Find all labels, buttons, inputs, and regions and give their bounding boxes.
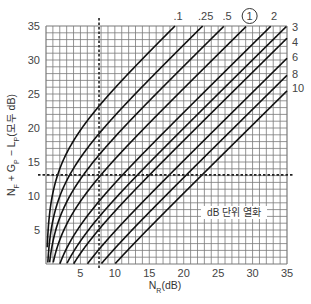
- curve-label-10: 10: [292, 82, 304, 94]
- annotation-box: dB 단위 열화: [201, 206, 267, 219]
- x-tick-20: 20: [178, 267, 190, 279]
- degradation-chart: 5101520253035 5101520253035 .1.25.512346…: [0, 0, 311, 304]
- curve-degradation-6: [88, 58, 287, 263]
- curve-label-8: 8: [292, 68, 298, 80]
- annotation-degradation-unit: dB 단위 열화: [207, 206, 261, 218]
- y-tick-35: 35: [28, 20, 40, 32]
- y-tick-15: 15: [28, 156, 40, 168]
- curve-label-p1: .1: [173, 10, 182, 22]
- curve-degradation-10: [115, 91, 287, 264]
- x-tick-5: 5: [77, 267, 83, 279]
- x-tick-25: 25: [212, 267, 224, 279]
- y-tick-25: 25: [28, 88, 40, 100]
- curve-label-6: 6: [292, 51, 298, 63]
- y-axis-label: NF + GP − LP(모두 dB): [5, 94, 20, 196]
- y-axis-ticks: 5101520253035: [28, 20, 40, 236]
- y-tick-30: 30: [28, 54, 40, 66]
- curve-label-p25: .25: [198, 10, 213, 22]
- x-axis-label: NR(dB): [149, 279, 182, 294]
- x-tick-35: 35: [281, 267, 293, 279]
- y-tick-10: 10: [28, 190, 40, 202]
- x-tick-15: 15: [143, 267, 155, 279]
- y-tick-20: 20: [28, 122, 40, 134]
- y-tick-5: 5: [34, 224, 40, 236]
- curve-label-p5: .5: [223, 10, 232, 22]
- degradation-curves: [47, 26, 287, 264]
- x-tick-30: 30: [246, 267, 258, 279]
- x-tick-10: 10: [109, 267, 121, 279]
- x-axis-ticks: 5101520253035: [77, 267, 293, 279]
- curve-label-3: 3: [292, 21, 298, 33]
- curve-label-1: 1: [247, 10, 253, 22]
- curve-label-4: 4: [292, 36, 298, 48]
- curve-label-2: 2: [271, 10, 277, 22]
